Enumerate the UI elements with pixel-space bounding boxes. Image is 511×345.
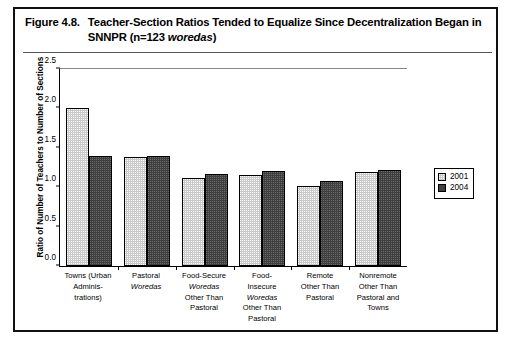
bar-2004-4[interactable] (320, 181, 343, 266)
x-axis-label-line: Adminis- (59, 282, 117, 293)
x-axis-label-3: Food-InsecureWoredasOther ThanPastoral (233, 271, 291, 325)
caption-segment-2: ) (213, 31, 217, 43)
figure-frame: Figure 4.8. Teacher-Section Ratios Tende… (13, 7, 498, 332)
x-axis-label-line: Pastoral (175, 303, 233, 314)
legend-swatch-2004 (438, 184, 446, 192)
bar-group (234, 69, 292, 266)
bar-2001-3[interactable] (239, 175, 262, 266)
chart-area: Ratio of Number of Teachers to Number of… (15, 55, 496, 330)
x-axis-label-line: Woredas (175, 282, 233, 293)
y-tick-label-3: 1.5 (45, 134, 56, 143)
bar-group (176, 69, 234, 266)
x-axis-label-line: Pastoral (117, 271, 175, 282)
legend-item-2004[interactable]: 2004 (438, 183, 468, 193)
y-tick-label-4: 2.0 (45, 95, 56, 104)
x-axis-label-4: RemoteOther ThanPastoral (291, 271, 349, 303)
bar-2001-2[interactable] (182, 178, 205, 266)
x-tick-mark-5 (349, 266, 350, 270)
x-axis-label-line: Nonremote (349, 271, 407, 282)
x-axis-label-line: Food- (233, 271, 291, 282)
figure-number: Figure 4.8. (25, 15, 88, 30)
figure-caption-inner: Figure 4.8. Teacher-Section Ratios Tende… (25, 15, 486, 45)
legend-item-2001[interactable]: 2001 (438, 172, 468, 182)
x-axis-label-1: PastoralWoredas (117, 271, 175, 293)
bar-2004-3[interactable] (262, 171, 285, 266)
x-axis-label-line: Woredas (233, 293, 291, 304)
x-axis-label-line: Pastoral (233, 314, 291, 325)
legend-label-2004: 2004 (450, 183, 468, 193)
x-axis-label-line: Towns (349, 303, 407, 314)
bar-group (291, 69, 349, 266)
y-tick-label-1: 0.5 (45, 213, 56, 222)
x-tick-mark-1 (118, 266, 119, 270)
plot-area: 0.0 0.5 1.0 1.5 2.0 2.5 (59, 69, 407, 267)
x-axis-label-line: Insecure (233, 282, 291, 293)
bar-2004-0[interactable] (89, 156, 112, 266)
legend-label-2001: 2001 (450, 172, 468, 182)
caption-segment-1: Teacher-Section Ratios Tended to Equaliz… (88, 16, 482, 43)
bar-2001-1[interactable] (124, 157, 147, 266)
chart-legend: 2001 2004 (434, 168, 474, 199)
bar-2004-2[interactable] (205, 174, 228, 266)
x-axis-label-line: Woredas (117, 282, 175, 293)
x-tick-mark-2 (176, 266, 177, 270)
bar-group (349, 69, 407, 266)
x-axis-label-line: Other Than (291, 282, 349, 293)
x-axis-label-line: Other Than (233, 303, 291, 314)
bar-group (60, 69, 118, 266)
caption-divider (23, 52, 492, 53)
bar-2001-4[interactable] (297, 186, 320, 266)
figure-caption-text: Teacher-Section Ratios Tended to Equaliz… (88, 15, 486, 45)
x-axis-label-line: Pastoral (291, 293, 349, 304)
bar-2001-0[interactable] (66, 108, 89, 266)
x-axis-label-line: Other Than (175, 293, 233, 304)
y-tick-label-0: 0.0 (45, 253, 56, 262)
legend-swatch-2001 (438, 173, 446, 181)
y-tick-label-5: 2.5 (45, 56, 56, 65)
x-axis-labels: Towns (UrbanAdminis-trations)PastoralWor… (59, 271, 407, 329)
x-axis-label-line: Other Than (349, 282, 407, 293)
bar-2004-5[interactable] (378, 170, 401, 266)
bar-2004-1[interactable] (147, 156, 170, 266)
bar-group (118, 69, 176, 266)
x-axis-label-line: Pastoral and (349, 293, 407, 304)
x-axis-label-0: Towns (UrbanAdminis-trations) (59, 271, 117, 303)
x-axis-label-line: Food-Secure (175, 271, 233, 282)
x-axis-label-2: Food-SecureWoredasOther ThanPastoral (175, 271, 233, 314)
x-tick-mark-3 (234, 266, 235, 270)
x-axis-label-line: Towns (Urban (59, 271, 117, 282)
x-axis-label-line: Remote (291, 271, 349, 282)
y-tick-label-2: 1.0 (45, 174, 56, 183)
x-axis-label-line: trations) (59, 293, 117, 304)
y-axis-title: Ratio of Number of Teachers to Number of… (36, 58, 45, 258)
bar-2001-5[interactable] (355, 172, 378, 266)
caption-italic-woredas: woredas (168, 31, 213, 43)
figure-caption: Figure 4.8. Teacher-Section Ratios Tende… (15, 9, 496, 49)
x-tick-mark-4 (291, 266, 292, 270)
x-axis-label-5: NonremoteOther ThanPastoral andTowns (349, 271, 407, 314)
